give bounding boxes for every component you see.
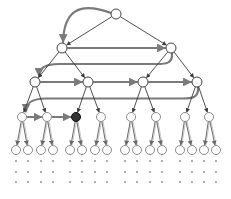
tree-edge <box>71 121 75 145</box>
ellipsis-dot <box>191 160 193 162</box>
tree-node <box>166 43 176 53</box>
tree-edge <box>67 17 112 45</box>
ellipsis-dot <box>124 181 126 183</box>
ellipsis-dot <box>52 160 54 162</box>
ellipsis-dot <box>15 181 17 183</box>
ellipsis-dot <box>81 160 83 162</box>
tree-node <box>78 146 87 155</box>
tree-edge-shadow <box>211 121 216 145</box>
tree-edge <box>102 121 106 145</box>
ellipsis-dot <box>52 181 54 183</box>
tree-edge <box>132 121 136 145</box>
ellipsis-dot <box>215 181 217 183</box>
tree-node <box>37 146 46 155</box>
ellipsis-dot <box>203 171 205 173</box>
ellipsis-dot <box>15 171 17 173</box>
tree-edges <box>17 17 216 145</box>
traversal-arrow <box>63 8 111 42</box>
ellipsis-dot <box>179 160 181 162</box>
tree-edge <box>151 121 155 145</box>
tree-node <box>146 146 155 155</box>
tree-edge <box>187 87 196 113</box>
tree-node <box>103 146 112 155</box>
tree-node <box>30 77 40 87</box>
ellipsis-dot <box>149 181 151 183</box>
tree-edge <box>120 17 166 45</box>
ellipsis-dot <box>203 160 205 162</box>
ellipsis-dot <box>136 181 138 183</box>
ellipsis-dot <box>94 171 96 173</box>
tree-node <box>111 9 121 19</box>
ellipsis-dot <box>69 171 71 173</box>
tree-node <box>188 146 197 155</box>
tree-diagram <box>0 0 231 199</box>
tree-edge <box>126 121 130 145</box>
tree-node <box>121 146 130 155</box>
ellipsis-dot <box>40 160 42 162</box>
ellipsis-dot <box>69 160 71 162</box>
tree-edge-shadow <box>187 121 192 145</box>
tree-node <box>133 146 142 155</box>
ellipsis-dot <box>27 171 29 173</box>
tree-edge <box>96 121 100 145</box>
tree-node <box>205 113 214 122</box>
tree-edge <box>77 121 81 145</box>
ellipsis-dot <box>40 181 42 183</box>
ellipsis-dot <box>203 181 205 183</box>
tree-edge <box>42 121 46 145</box>
tree-node <box>212 146 221 155</box>
tree-node <box>138 77 148 87</box>
ellipsis-dot <box>81 171 83 173</box>
ellipsis-dot <box>124 171 126 173</box>
ellipsis-dot <box>179 171 181 173</box>
ellipsis-dot <box>215 160 217 162</box>
tree-node <box>158 146 167 155</box>
ellipsis-dot <box>136 160 138 162</box>
tree-node <box>192 77 202 87</box>
ellipsis-dot <box>161 160 163 162</box>
tree-edge <box>17 121 21 145</box>
tree-node <box>176 146 185 155</box>
ellipsis-dot <box>215 171 217 173</box>
tree-node <box>57 43 67 53</box>
ellipsis-dot <box>136 171 138 173</box>
tree-edge <box>186 121 191 145</box>
ellipsis-dot <box>191 171 193 173</box>
tree-node <box>200 146 209 155</box>
ellipsis-dot <box>106 171 108 173</box>
tree-edge <box>24 87 34 113</box>
traversal-arrows <box>26 8 198 117</box>
tree-edge <box>48 121 52 145</box>
tree-node <box>127 113 136 122</box>
tree-edge <box>210 121 215 145</box>
tree-node <box>24 146 33 155</box>
traversal-arrow <box>26 87 198 112</box>
tree-node <box>66 146 75 155</box>
ellipsis-dot <box>81 181 83 183</box>
ellipsis-dot <box>27 181 29 183</box>
tree-node <box>91 146 100 155</box>
ellipsis-dot <box>15 160 17 162</box>
ellipsis-dot <box>149 160 151 162</box>
tree-diagram-canvas <box>0 0 231 199</box>
ellipsis-dot <box>124 160 126 162</box>
tree-node <box>152 113 161 122</box>
highlighted-node <box>72 113 81 122</box>
ellipsis-dot <box>161 171 163 173</box>
ellipsis-dot <box>106 181 108 183</box>
ellipsis-dot <box>179 181 181 183</box>
ellipsis-dot <box>69 181 71 183</box>
tree-node <box>97 113 106 122</box>
ellipsis-dot <box>94 181 96 183</box>
ellipsis-dot <box>27 160 29 162</box>
tree-edge <box>199 87 208 113</box>
tree-edge <box>157 121 161 145</box>
ellipsis-dots <box>15 160 217 183</box>
tree-node <box>83 77 93 87</box>
ellipsis-dot <box>40 171 42 173</box>
traversal-arrow <box>39 53 172 76</box>
ellipsis-dot <box>52 171 54 173</box>
ellipsis-dot <box>94 160 96 162</box>
tree-edge <box>174 52 194 78</box>
tree-node <box>49 146 58 155</box>
